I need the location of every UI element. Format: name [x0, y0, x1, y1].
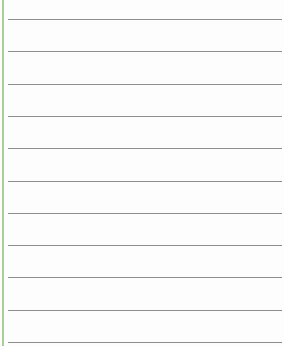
ruled-line [8, 116, 282, 117]
ruled-line [8, 342, 282, 343]
margin-line [2, 0, 4, 346]
ruled-line [8, 245, 282, 246]
ruled-line [8, 51, 282, 52]
ruled-line [8, 181, 282, 182]
ruled-line [8, 19, 282, 20]
lined-paper-sheet [0, 0, 284, 346]
ruled-line [8, 148, 282, 149]
ruled-line [8, 213, 282, 214]
ruled-line [8, 84, 282, 85]
ruled-line [8, 310, 282, 311]
ruled-line [8, 277, 282, 278]
